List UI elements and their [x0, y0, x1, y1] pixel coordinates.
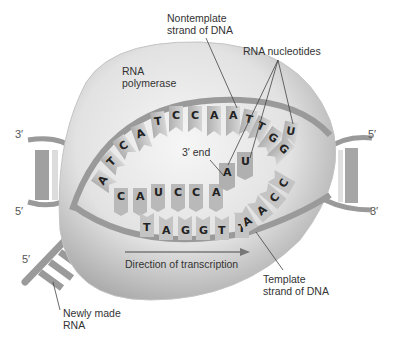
svg-text:G: G [181, 224, 190, 237]
svg-text:C: C [172, 109, 180, 122]
svg-text:A: A [229, 109, 238, 122]
rna-polymerase-label: RNA polymerase [122, 65, 176, 89]
svg-text:U: U [241, 155, 250, 168]
three-prime-end-label: 3′ end [182, 146, 210, 158]
rna-five-prime-label: 5′ [22, 253, 30, 265]
left-top-end-label: 3′ [15, 128, 23, 140]
template-label: Template strand of DNA [263, 273, 329, 297]
svg-text:G: G [199, 224, 208, 237]
svg-text:C: C [192, 186, 200, 199]
svg-text:U: U [154, 186, 163, 199]
transcription-diagram: A T C A T C C A A T T G G U C A U C C A … [0, 0, 397, 342]
svg-text:T: T [218, 224, 226, 237]
svg-text:A: A [210, 109, 219, 122]
left-bottom-end-label: 5′ [15, 205, 23, 217]
direction-label: Direction of transcription [125, 258, 238, 270]
svg-text:A: A [162, 224, 171, 237]
svg-text:C: C [174, 186, 182, 199]
svg-text:A: A [136, 190, 145, 203]
rna-nucleotides-label: RNA nucleotides [243, 45, 321, 57]
diagram-graphic: A T C A T C C A A T T G G U C A U C C A … [0, 0, 397, 342]
svg-text:A: A [212, 186, 221, 199]
svg-text:T: T [143, 221, 151, 234]
svg-text:C: C [191, 109, 199, 122]
right-top-end-label: 5′ [368, 128, 376, 140]
nontemplate-label: Nontemplate strand of DNA [167, 12, 233, 36]
svg-text:C: C [117, 190, 125, 203]
svg-text:A: A [223, 166, 232, 179]
newly-made-rna-label: Newly made RNA [63, 307, 121, 331]
right-bottom-end-label: 3′ [370, 205, 378, 217]
